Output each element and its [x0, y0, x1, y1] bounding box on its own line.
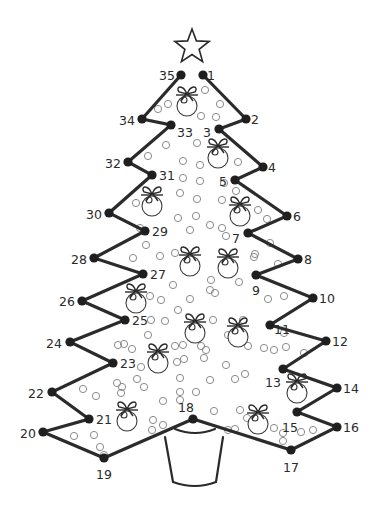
- bow-icon: [181, 247, 190, 254]
- bubble: [260, 344, 267, 351]
- dot-number-label: 31: [159, 168, 175, 183]
- dot-number-label: 23: [120, 356, 136, 371]
- ornament: [227, 318, 249, 347]
- bubble: [70, 432, 77, 439]
- dot-node: [140, 226, 149, 235]
- bubble: [241, 370, 248, 377]
- dot-node: [176, 70, 185, 79]
- bubble: [90, 431, 97, 438]
- bubble: [216, 100, 223, 107]
- bubble: [193, 139, 200, 146]
- dot-number-label: 4: [268, 160, 276, 175]
- bubble: [129, 254, 136, 261]
- dot-node: [99, 453, 108, 462]
- bubble: [154, 105, 161, 112]
- bubble: [171, 342, 178, 349]
- bubble: [210, 407, 217, 414]
- bubble: [146, 292, 153, 299]
- bubble: [264, 295, 271, 302]
- bubble: [235, 278, 242, 285]
- bubble: [218, 196, 225, 203]
- dot-number-label: 24: [46, 336, 62, 351]
- bubble: [186, 226, 193, 233]
- bubble: [179, 174, 186, 181]
- bow-icon: [249, 405, 258, 412]
- dot-node: [138, 269, 147, 278]
- dot-node: [166, 120, 175, 129]
- bubble: [193, 195, 200, 202]
- dot-number-label: 25: [132, 313, 148, 328]
- dot-number-label: 5: [219, 174, 227, 189]
- bubble: [162, 141, 169, 148]
- ornament: [141, 187, 163, 216]
- dot-node: [258, 162, 267, 171]
- bubble: [174, 214, 181, 221]
- bubble: [174, 306, 181, 313]
- dot-node: [241, 114, 250, 123]
- bubble: [232, 187, 239, 194]
- dot-number-label: 16: [343, 420, 359, 435]
- bubble: [270, 346, 277, 353]
- bubble: [96, 443, 103, 450]
- bubble: [201, 86, 208, 93]
- bubble: [128, 345, 135, 352]
- bubble: [161, 317, 168, 324]
- bow-icon: [178, 87, 187, 94]
- dot-node: [108, 358, 117, 367]
- bubble: [280, 292, 287, 299]
- bubble: [192, 212, 199, 219]
- bubble: [147, 316, 154, 323]
- dot-node: [188, 414, 197, 423]
- dot-node: [230, 175, 239, 184]
- dot-node: [120, 315, 129, 324]
- dot-number-label: 13: [265, 375, 281, 390]
- dot-number-label: 26: [59, 294, 75, 309]
- dot-node: [147, 170, 156, 179]
- bubble: [270, 424, 277, 431]
- ornament: [147, 344, 169, 373]
- connect-the-dots-canvas: 1234567891011121314151617181920212223242…: [0, 0, 382, 521]
- bubble: [279, 437, 286, 444]
- dot-number-label: 29: [152, 224, 168, 239]
- bubble: [179, 157, 186, 164]
- bubble: [297, 428, 304, 435]
- bubble: [164, 100, 171, 107]
- bubble: [254, 206, 261, 213]
- dot-node: [308, 293, 317, 302]
- bubble: [236, 406, 243, 413]
- dot-number-label: 6: [293, 209, 301, 224]
- bubble: [222, 361, 229, 368]
- star-icon: [175, 29, 209, 62]
- bubble: [171, 249, 178, 256]
- ornament: [217, 249, 239, 278]
- dot-node: [77, 296, 86, 305]
- bow-icon: [219, 249, 228, 256]
- dot-node: [292, 407, 301, 416]
- bubble: [206, 221, 213, 228]
- dot-node: [89, 253, 98, 262]
- bubble: [207, 276, 214, 283]
- bubble: [142, 241, 149, 248]
- ornament: [176, 87, 198, 116]
- dot-node: [214, 124, 223, 133]
- bubble: [231, 375, 238, 382]
- ornament: [116, 402, 138, 431]
- dot-number-label: 7: [232, 231, 240, 246]
- bubble: [309, 426, 316, 433]
- dot-number-label: 20: [20, 426, 36, 441]
- bubble: [149, 416, 156, 423]
- dot-node: [123, 157, 132, 166]
- bubble: [197, 342, 204, 349]
- dot-node: [286, 445, 295, 454]
- dot-node: [84, 414, 93, 423]
- bubble: [186, 295, 193, 302]
- bow-icon: [209, 139, 218, 146]
- pot-rim: [175, 429, 215, 433]
- bubble: [209, 316, 216, 323]
- ornament: [229, 197, 251, 226]
- dot-number-label: 2: [251, 112, 259, 127]
- bubble: [192, 388, 199, 395]
- dot-node: [38, 427, 47, 436]
- dot-number-label: 33: [177, 125, 193, 140]
- tree-pot: [165, 429, 223, 486]
